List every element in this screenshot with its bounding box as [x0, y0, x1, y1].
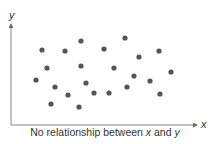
data-point: [101, 46, 106, 51]
data-point: [91, 90, 96, 95]
data-point: [168, 69, 173, 74]
data-point: [106, 90, 111, 95]
data-point: [39, 47, 44, 52]
data-point: [78, 63, 83, 68]
data-point: [33, 77, 38, 82]
data-point: [124, 84, 129, 89]
data-point: [78, 38, 83, 43]
data-point: [65, 92, 70, 97]
data-point: [131, 73, 136, 78]
data-point: [157, 91, 162, 96]
caption-text: No relationship between: [30, 126, 146, 138]
data-point: [136, 54, 141, 59]
data-point: [44, 65, 49, 70]
data-point: [111, 65, 116, 70]
data-point: [122, 35, 127, 40]
data-point: [83, 80, 88, 85]
data-point: [147, 78, 152, 83]
data-points: [33, 35, 173, 109]
y-axis-label: y: [8, 9, 16, 21]
data-point: [156, 48, 161, 53]
chart-caption: No relationship between x and y: [0, 126, 210, 138]
data-point: [62, 48, 67, 53]
caption-y: y: [174, 126, 179, 138]
data-point: [48, 101, 53, 106]
scatter-plot: y x: [0, 0, 210, 144]
data-point: [76, 104, 81, 109]
caption-text: and: [151, 126, 174, 138]
data-point: [52, 84, 57, 89]
